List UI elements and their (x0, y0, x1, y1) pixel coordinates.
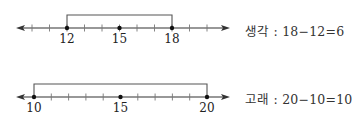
point-dot (117, 26, 121, 30)
point-dot (118, 95, 122, 99)
equation-gorae: 고래 : 20−10=10 (245, 89, 352, 108)
equation-name: 생각 (245, 24, 269, 39)
equation-name: 고래 (245, 92, 269, 107)
point-dot (32, 95, 36, 99)
point-dot (65, 26, 69, 30)
tick-label: 20 (199, 101, 214, 115)
tick-label: 15 (112, 32, 127, 46)
equation-separator: : (269, 24, 282, 39)
tick-label: 10 (26, 101, 41, 115)
equation-expression: 18−12=6 (282, 24, 344, 39)
number-line-diagram: 121518101520 생각 : 18−12=6 고래 : 20−10=10 (0, 0, 353, 120)
equation-saenggak: 생각 : 18−12=6 (245, 21, 344, 40)
number-line-gorae: 101520 (16, 84, 230, 115)
point-dot (205, 95, 209, 99)
point-dot (170, 26, 174, 30)
tick-label: 12 (59, 32, 74, 46)
tick-label: 15 (113, 101, 128, 115)
equation-expression: 20−10=10 (282, 92, 352, 107)
equation-separator: : (269, 92, 282, 107)
number-line-saenggak: 121518 (16, 15, 230, 46)
tick-label: 18 (164, 32, 179, 46)
